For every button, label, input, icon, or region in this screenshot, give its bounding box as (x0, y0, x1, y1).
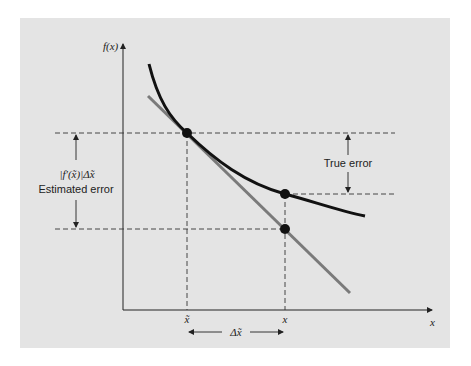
estimated-error-label: Estimated error (38, 183, 114, 195)
x-tick-true: x (282, 313, 288, 325)
delta-label: Δx̃ (229, 326, 242, 338)
y-axis-label: f(x) (103, 40, 119, 53)
point-tangent-estimate (280, 224, 290, 234)
point-approx (182, 128, 192, 138)
estimated-error-formula: |f′(x̃)|Δx̃ (59, 168, 95, 181)
point-true-curve (280, 189, 290, 199)
error-propagation-diagram: f(x) x |f′(x̃)|Δx̃ Estimated error True … (0, 0, 471, 366)
x-tick-approx: x̃ (184, 313, 191, 325)
function-curve (149, 64, 365, 216)
x-axis-label: x (429, 316, 435, 328)
true-error-label: True error (324, 157, 373, 169)
